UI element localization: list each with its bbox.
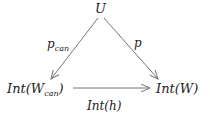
edge-label-p-can-sub: can <box>55 44 69 53</box>
edge-label-int-h-text: Int(h) <box>87 99 121 113</box>
node-int-w: Int(W) <box>156 82 198 95</box>
edge-label-int-h: Int(h) <box>87 100 121 112</box>
node-int-w-label: Int(W) <box>156 81 198 96</box>
node-int-w-can-sub: can <box>44 89 58 98</box>
arrow-p <box>104 18 158 79</box>
node-int-w-can: Int(Wcan) <box>7 82 64 98</box>
node-int-w-can-main: Int(W <box>7 81 44 96</box>
node-u: U <box>95 2 106 15</box>
edge-label-p-text: p <box>134 36 142 50</box>
edge-label-p: p <box>134 37 142 49</box>
node-u-label: U <box>95 1 106 16</box>
commutative-diagram: U pcan p Int(Wcan) Int(W) Int(h) <box>0 0 210 121</box>
node-int-w-can-close: ) <box>59 81 64 96</box>
edge-label-p-can: pcan <box>47 38 69 53</box>
edge-label-p-can-main: p <box>47 37 55 51</box>
